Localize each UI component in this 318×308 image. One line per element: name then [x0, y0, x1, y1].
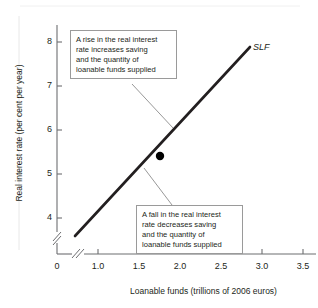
callout-rise-line-1: A rise in the real interest	[76, 35, 171, 45]
callout-rise-line-2: rate increases saving	[76, 45, 171, 55]
y-tick-label-4: 4	[38, 212, 52, 222]
callout-fall-line-2: rate decreases saving	[142, 220, 237, 230]
y-tick-label-8: 8	[38, 36, 52, 46]
callout-rise-leader-line	[132, 84, 173, 128]
callout-fall-line-1: A fall in the real interest	[142, 210, 237, 220]
x-tick-label-1-0: 1.0	[86, 261, 110, 271]
slf-curve-label: SLF	[253, 42, 270, 52]
x-tick-label-2-0: 2.0	[168, 261, 192, 271]
callout-fall-leader-line	[144, 168, 172, 205]
y-axis-title: Real interest rate (per cent per year)	[14, 53, 24, 213]
equilibrium-point-marker	[156, 152, 164, 160]
callout-fall-line-3: and the quantity of	[142, 230, 237, 240]
callout-rise-line-4: loanable funds supplied	[76, 65, 171, 75]
x-tick-label-3-5: 3.5	[291, 261, 315, 271]
x-tick-label-3-0: 3.0	[250, 261, 274, 271]
callout-fall: A fall in the real interest rate decreas…	[136, 205, 243, 254]
callout-fall-line-4: loanable funds supplied	[142, 240, 237, 250]
callout-rise: A rise in the real interest rate increas…	[70, 30, 177, 79]
y-tick-label-7: 7	[38, 80, 52, 90]
x-tick-label-1-5: 1.5	[127, 261, 151, 271]
x-tick-label-0: 0	[45, 261, 69, 271]
x-axis-break-mark-1	[72, 249, 80, 258]
y-tick-label-5: 5	[38, 168, 52, 178]
callout-rise-line-3: and the quantity of	[76, 55, 171, 65]
y-axis-break-mark-1	[53, 232, 61, 241]
x-tick-label-2-5: 2.5	[209, 261, 233, 271]
x-axis-title: Loanable funds (trillions of 2006 euros)	[130, 286, 277, 296]
loanable-funds-supply-chart: 8 7 6 5 4 0 1.0 1.5 2.0 2.5 3.0 3.5 Real…	[0, 0, 318, 308]
y-tick-label-6: 6	[38, 124, 52, 134]
x-axis-break-mark-2	[76, 249, 84, 258]
